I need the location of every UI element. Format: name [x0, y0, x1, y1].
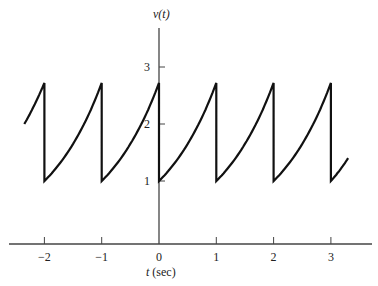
axes: [9, 28, 372, 244]
x-tick-label: −2: [38, 250, 51, 264]
x-tick-label: 1: [213, 250, 219, 264]
y-tick-label: 1: [144, 174, 150, 188]
x-tick-label: 3: [328, 250, 334, 264]
x-tick-label: 2: [271, 250, 277, 264]
chart: −2−10123123 v(t) t (sec): [0, 0, 378, 286]
y-tick-label: 3: [144, 60, 150, 74]
x-tick-label: 0: [156, 250, 162, 264]
x-tick-label: −1: [95, 250, 108, 264]
signal-curve: [24, 83, 348, 181]
y-axis-label: v(t): [153, 7, 170, 21]
x-axis-label: t (sec): [146, 265, 176, 279]
